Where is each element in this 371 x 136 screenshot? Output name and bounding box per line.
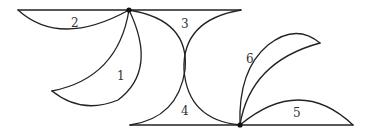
region-3-4-left-arc: [129, 10, 185, 125]
region-6-label: 6: [246, 52, 254, 66]
bottom-point: [237, 122, 242, 127]
region-4-label: 4: [181, 104, 189, 118]
region-1-label: 1: [117, 69, 125, 83]
geometry-figure: 2 1 3 4 5 6: [0, 0, 371, 136]
top-point: [126, 7, 131, 12]
region-2-label: 2: [71, 16, 79, 30]
region-5-label: 5: [293, 106, 301, 120]
region-3-label: 3: [181, 17, 189, 31]
region-3-4-right-arc: [184, 10, 241, 125]
